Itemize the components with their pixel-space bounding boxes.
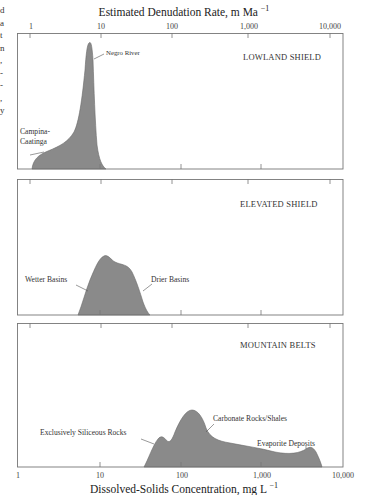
annotation-wetter-basins: Wetter Basins <box>25 275 67 284</box>
bottom-tick-10000: 10,000 <box>332 471 354 480</box>
bottom-axis-title-exponent: −1 <box>269 481 278 490</box>
bottom-tick-1000: 1,000 <box>253 471 271 480</box>
siliceous-leader <box>141 439 154 444</box>
wetter-basins-leader <box>76 285 88 291</box>
panel-label-mountain: MOUNTAIN BELTS <box>240 340 316 350</box>
drier-basins-leader <box>143 284 152 291</box>
bottom-tick-10: 10 <box>96 471 104 480</box>
annotation-drier-basins: Drier Basins <box>151 275 189 284</box>
bottom-tick-1: 1 <box>16 471 20 480</box>
panel-label-elevated: ELEVATED SHIELD <box>240 199 318 209</box>
lowland-distribution-area <box>32 43 106 169</box>
annotation-siliceous-rocks: Exclusively Siliceous Rocks <box>40 428 126 437</box>
elevated-distribution-area <box>78 256 150 315</box>
annotation-evaporite-deposits: Evaporite Deposits <box>257 439 315 448</box>
bottom-tick-100: 100 <box>176 471 188 480</box>
carbonate-leader <box>206 424 214 432</box>
annotation-negro-river: Negro River <box>106 49 140 56</box>
negro-river-leader <box>94 54 104 59</box>
chart-canvas <box>0 0 368 495</box>
bottom-axis-title: Dissolved-Solids Concentration, mg L −1 <box>0 481 368 495</box>
panel-label-lowland: LOWLAND SHIELD <box>243 52 321 62</box>
annotation-campina: Campina- <box>20 127 50 136</box>
annotation-carbonate-rocks: Carbonate Rocks/Shales <box>213 414 287 423</box>
annotation-caatinga: Caatinga <box>20 137 47 146</box>
bottom-axis-title-text: Dissolved-Solids Concentration, mg L <box>90 483 267 495</box>
